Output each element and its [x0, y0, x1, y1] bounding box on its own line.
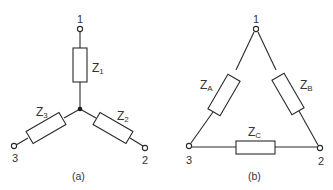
terminal-b-1 — [253, 26, 258, 31]
impedance-label-za: ZA — [200, 79, 213, 93]
terminal-a-2 — [142, 145, 147, 150]
terminal-label-b-3: 3 — [186, 155, 192, 166]
impedance-label-zb: ZB — [300, 79, 313, 93]
wire-star-3-outer — [16, 138, 28, 145]
terminal-b-3 — [186, 143, 191, 148]
star-network — [11, 26, 147, 150]
caption-a: (a) — [72, 171, 85, 182]
impedance-label-z3: Z3 — [36, 106, 48, 120]
wire-delta-a-bottom — [191, 112, 213, 143]
terminal-a-1 — [77, 26, 82, 31]
terminal-b-2 — [317, 145, 322, 150]
impedance-label-z2: Z2 — [117, 110, 129, 124]
impedance-label-zc: ZC — [248, 126, 261, 140]
wire-star-3-inner — [64, 109, 80, 118]
wire-star-2-outer — [130, 138, 143, 146]
terminal-label-a-1: 1 — [77, 14, 83, 25]
wire-delta-b-bottom — [299, 111, 318, 145]
wire-delta-b-top — [258, 32, 276, 70]
terminal-label-a-2: 2 — [142, 155, 148, 166]
resistor-zc — [236, 141, 275, 154]
star-delta-diagram — [0, 0, 333, 190]
terminal-label-a-3: 3 — [12, 153, 18, 164]
resistor-z1 — [73, 48, 87, 82]
resistor-za — [208, 74, 240, 116]
impedance-label-z1: Z1 — [92, 62, 104, 76]
caption-b: (b) — [248, 171, 261, 182]
terminal-label-b-1: 1 — [253, 14, 259, 25]
wire-delta-a-top — [236, 32, 254, 70]
wire-star-2-inner — [80, 109, 96, 118]
terminal-a-3 — [11, 143, 16, 148]
terminal-label-b-2: 2 — [318, 156, 324, 167]
star-center-node — [78, 107, 83, 112]
